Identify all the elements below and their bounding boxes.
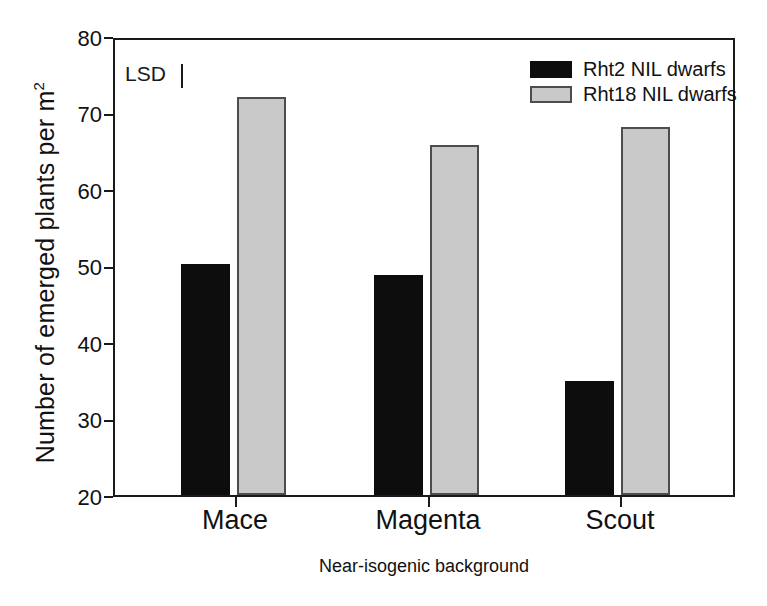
- y-tick-label-80: 80: [58, 28, 102, 50]
- y-tick-mark-50: [104, 267, 113, 269]
- y-tick-label-30: 30: [58, 410, 102, 432]
- y-tick-mark-70: [104, 114, 113, 116]
- bar-mace-rht18: [237, 97, 286, 495]
- legend: Rht2 NIL dwarfs Rht18 NIL dwarfs: [530, 57, 737, 107]
- y-tick-mark-40: [104, 343, 113, 345]
- legend-swatch-icon-rht18: [530, 86, 572, 103]
- y-tick-label-40: 40: [58, 334, 102, 356]
- legend-item-rht2: Rht2 NIL dwarfs: [530, 57, 737, 82]
- y-tick-label-60: 60: [58, 181, 102, 203]
- y-tick-mark-30: [104, 420, 113, 422]
- bar-mace-rht2: [181, 264, 230, 495]
- y-tick-label-50: 50: [58, 257, 102, 279]
- lsd-marker-icon: [181, 64, 183, 88]
- bar-magenta-rht18: [430, 145, 479, 495]
- bar-scout-rht18: [621, 127, 670, 495]
- legend-label-rht18: Rht18 NIL dwarfs: [583, 83, 737, 106]
- y-tick-label-70: 70: [58, 104, 102, 126]
- legend-item-rht18: Rht18 NIL dwarfs: [530, 82, 737, 107]
- y-tick-mark-20: [104, 496, 113, 498]
- legend-label-rht2: Rht2 NIL dwarfs: [583, 58, 726, 81]
- y-tick-mark-80: [104, 37, 113, 39]
- bar-scout-rht2: [565, 381, 614, 496]
- y-axis-tick-labels: 80 70 60 50 40 30 20: [52, 0, 102, 606]
- legend-swatch-icon-rht2: [530, 61, 572, 78]
- bar-chart-figure: Number of emerged plants per m2 80 70 60…: [0, 0, 767, 606]
- y-tick-mark-60: [104, 190, 113, 192]
- x-tick-label-scout: Scout: [510, 505, 730, 536]
- y-axis-title-superscript: 2: [30, 82, 47, 91]
- x-tick-label-magenta: Magenta: [318, 505, 538, 536]
- plot-area: LSD Rht2 NIL dwarfs Rht18 NIL dwarfs: [113, 38, 735, 497]
- bar-magenta-rht2: [374, 275, 423, 495]
- y-tick-label-20: 20: [58, 487, 102, 509]
- x-tick-label-mace: Mace: [125, 505, 345, 536]
- x-axis-title: Near-isogenic background: [113, 556, 735, 577]
- lsd-label: LSD: [125, 62, 166, 86]
